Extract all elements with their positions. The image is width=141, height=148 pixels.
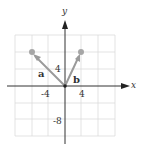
tick-x-neg4: -4 [41, 90, 50, 99]
x-axis-label: x [131, 81, 136, 90]
vector-a-label: a [38, 69, 44, 79]
y-axis-label: y [62, 7, 67, 16]
coordinate-plane [0, 0, 141, 148]
vector-b-label: b [73, 75, 80, 85]
tick-y-4: 4 [55, 65, 61, 74]
origin-point [63, 84, 67, 88]
tick-y-neg8: -8 [53, 117, 62, 126]
tick-x-4: 4 [79, 90, 85, 99]
x-axis [7, 83, 130, 89]
